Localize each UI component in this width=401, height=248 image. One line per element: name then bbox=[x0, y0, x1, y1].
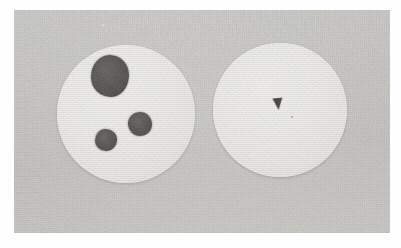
right-disc-fleck bbox=[291, 116, 293, 118]
figure-photograph bbox=[0, 0, 401, 248]
small-spot-texture bbox=[95, 129, 117, 151]
right-disc-triangular-mark bbox=[272, 98, 283, 111]
photo-frame bbox=[14, 10, 390, 233]
large-spot-texture bbox=[91, 55, 129, 97]
left-disc-large-spot bbox=[91, 55, 129, 97]
right-disc bbox=[213, 43, 347, 177]
photo-speck bbox=[102, 24, 105, 26]
medium-spot-texture bbox=[128, 112, 152, 136]
right-disc-texture bbox=[213, 43, 347, 177]
left-disc-medium-spot bbox=[128, 112, 152, 136]
left-disc-small-spot bbox=[95, 129, 117, 151]
left-disc bbox=[57, 45, 195, 183]
